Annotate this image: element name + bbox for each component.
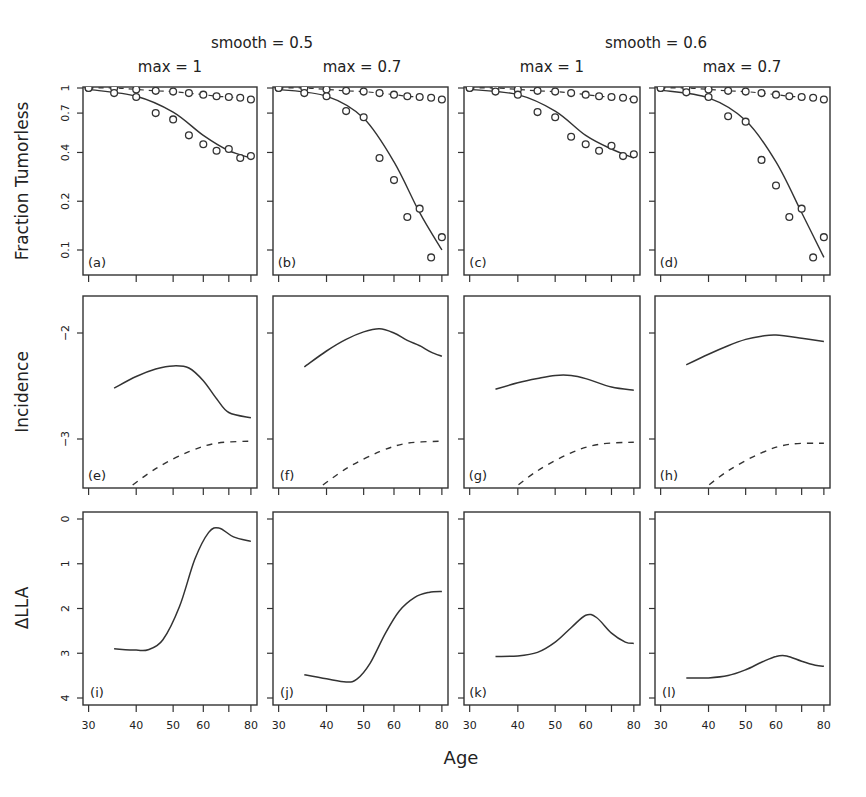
treated-point bbox=[630, 151, 637, 158]
treated-point bbox=[170, 116, 177, 123]
y-axis-label-row-3: ΔLLA bbox=[12, 586, 32, 629]
y-tick-label: 1 bbox=[59, 85, 72, 92]
treated-point bbox=[786, 214, 793, 221]
solid-curve bbox=[304, 329, 442, 367]
treated-point bbox=[492, 88, 499, 95]
x-tick-label: 50 bbox=[548, 719, 562, 732]
control-point bbox=[360, 88, 367, 95]
control-point bbox=[343, 87, 350, 94]
solid-curve bbox=[496, 375, 634, 390]
panel-label: (a) bbox=[88, 255, 106, 270]
x-tick-label: 60 bbox=[769, 719, 783, 732]
panel-a: 10.70.40.20.1(a) bbox=[59, 85, 257, 283]
treated-point bbox=[248, 153, 255, 160]
treated-point bbox=[301, 90, 308, 97]
panel-k: 3040506080(k) bbox=[458, 512, 641, 732]
treated-point bbox=[275, 85, 282, 92]
treated-point bbox=[798, 205, 805, 212]
treated-point bbox=[534, 109, 541, 116]
treated-point bbox=[111, 90, 118, 97]
control-point bbox=[725, 87, 732, 94]
panel-h: (h) bbox=[649, 296, 830, 495]
control-point bbox=[786, 93, 793, 100]
x-tick-label: 50 bbox=[357, 719, 371, 732]
y-tick-label: −2 bbox=[59, 325, 72, 341]
column-title-2: max = 1 bbox=[520, 58, 584, 76]
y-axis-label-row-1: Fraction Tumorless bbox=[12, 102, 32, 261]
x-tick-label: 40 bbox=[702, 719, 716, 732]
y-tick-label: 0.1 bbox=[59, 241, 72, 259]
treated-point bbox=[133, 94, 140, 101]
treated-point bbox=[725, 113, 732, 120]
x-tick-label: 80 bbox=[244, 719, 258, 732]
control-point bbox=[620, 94, 627, 101]
panel-c: (c) bbox=[458, 85, 640, 282]
panel-g: (g) bbox=[458, 296, 640, 495]
control-point bbox=[225, 94, 232, 101]
x-tick-label: 40 bbox=[320, 719, 334, 732]
control-point bbox=[133, 86, 140, 93]
x-tick-label: 30 bbox=[272, 719, 286, 732]
treated-fit-line bbox=[279, 89, 442, 250]
treated-point bbox=[416, 205, 423, 212]
control-point bbox=[376, 90, 383, 97]
x-tick-label: 50 bbox=[166, 719, 180, 732]
treated-point bbox=[343, 108, 350, 115]
treated-point bbox=[213, 147, 220, 154]
solid-curve bbox=[496, 614, 634, 656]
column-title-0: max = 1 bbox=[138, 58, 202, 76]
treated-point bbox=[552, 114, 559, 121]
panel-label: (c) bbox=[469, 255, 486, 270]
panel-label: (i) bbox=[90, 685, 104, 700]
control-point bbox=[568, 90, 575, 97]
group-title-smooth-0-6: smooth = 0.6 bbox=[605, 34, 707, 52]
treated-point bbox=[568, 133, 575, 140]
treated-point bbox=[657, 85, 664, 92]
x-tick-label: 50 bbox=[739, 719, 753, 732]
panel-label: (b) bbox=[278, 255, 296, 270]
panel-label: (f) bbox=[280, 468, 295, 483]
treated-point bbox=[200, 141, 207, 148]
control-point bbox=[596, 93, 603, 100]
control-point bbox=[200, 91, 207, 98]
control-point bbox=[582, 91, 589, 98]
x-tick-label: 80 bbox=[627, 719, 641, 732]
panel-label: (d) bbox=[660, 255, 678, 270]
control-point bbox=[742, 88, 749, 95]
treated-point bbox=[810, 254, 817, 261]
treated-point bbox=[404, 214, 411, 221]
panel-f: (f) bbox=[267, 296, 448, 495]
solid-curve bbox=[114, 366, 251, 418]
control-point bbox=[820, 96, 827, 103]
x-tick-label: 30 bbox=[654, 719, 668, 732]
treated-point bbox=[742, 118, 749, 125]
x-tick-label: 80 bbox=[817, 719, 831, 732]
treated-point bbox=[237, 155, 244, 162]
treated-point bbox=[225, 146, 232, 153]
control-point bbox=[170, 88, 177, 95]
x-axis-label: Age bbox=[444, 747, 479, 768]
treated-point bbox=[705, 94, 712, 101]
control-point bbox=[798, 94, 805, 101]
solid-curve bbox=[304, 592, 442, 682]
dashed-curve bbox=[123, 441, 251, 492]
control-point bbox=[534, 87, 541, 94]
panel-label: (l) bbox=[662, 685, 676, 700]
y-tick-label: 4 bbox=[59, 695, 72, 702]
column-title-3: max = 0.7 bbox=[703, 58, 782, 76]
panel-e: −2−3(e) bbox=[59, 296, 257, 495]
control-point bbox=[186, 90, 193, 97]
control-point bbox=[608, 94, 615, 101]
panel-b: (b) bbox=[267, 85, 448, 282]
x-tick-label: 40 bbox=[511, 719, 525, 732]
x-tick-label: 40 bbox=[129, 719, 143, 732]
control-point bbox=[237, 94, 244, 101]
control-point bbox=[323, 86, 330, 93]
control-point bbox=[552, 88, 559, 95]
treated-point bbox=[773, 182, 780, 189]
panel-label: (h) bbox=[660, 468, 678, 483]
y-axis-label-row-2: Incidence bbox=[12, 351, 32, 433]
dashed-curve bbox=[314, 441, 442, 492]
group-title-smooth-0-5: smooth = 0.5 bbox=[211, 34, 313, 52]
treated-point bbox=[323, 93, 330, 100]
